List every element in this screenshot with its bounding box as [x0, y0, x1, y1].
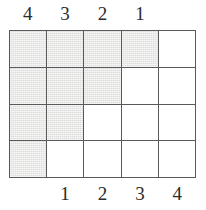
- bottom-axis-label-0: 1: [46, 180, 83, 208]
- top-axis-label-1: 3: [46, 0, 83, 28]
- grid-cell-r1-c4: [122, 31, 159, 68]
- grid-cell-r4-c1: [10, 141, 47, 178]
- grid-cell-r1-c1: [10, 31, 47, 68]
- grid-cell-r2-c2: [47, 68, 84, 105]
- cell-grid: [9, 30, 196, 178]
- grid-cell-r3-c5: [159, 105, 196, 142]
- top-axis-label-3: 1: [121, 0, 158, 28]
- grid-cell-r4-c2: [47, 141, 84, 178]
- grid-cell-r2-c5: [159, 68, 196, 105]
- grid-cell-r3-c1: [10, 105, 47, 142]
- top-axis-label-2: 2: [84, 0, 121, 28]
- grid-cell-r2-c1: [10, 68, 47, 105]
- grid-cell-r3-c4: [122, 105, 159, 142]
- bottom-axis-label-1: 2: [84, 180, 121, 208]
- grid-cell-r2-c3: [84, 68, 121, 105]
- grid-cell-r4-c5: [159, 141, 196, 178]
- bottom-axis-label-2: 3: [121, 180, 158, 208]
- bottom-axis-label-row: 1 2 3 4: [0, 180, 206, 208]
- bottom-axis-label-3: 4: [159, 180, 196, 208]
- top-axis-label-row: 4 3 2 1: [0, 0, 206, 28]
- grid-cell-r4-c4: [122, 141, 159, 178]
- grid-cell-r3-c2: [47, 105, 84, 142]
- grid-cell-r1-c2: [47, 31, 84, 68]
- grid-cell-r4-c3: [84, 141, 121, 178]
- grid-cell-r2-c4: [122, 68, 159, 105]
- grid-cell-r3-c3: [84, 105, 121, 142]
- top-axis-label-0: 4: [9, 0, 46, 28]
- grid-cell-r1-c5: [159, 31, 196, 68]
- staircase-grid-figure: 4 3 2 1 1 2 3 4: [0, 0, 206, 210]
- grid-cell-r1-c3: [84, 31, 121, 68]
